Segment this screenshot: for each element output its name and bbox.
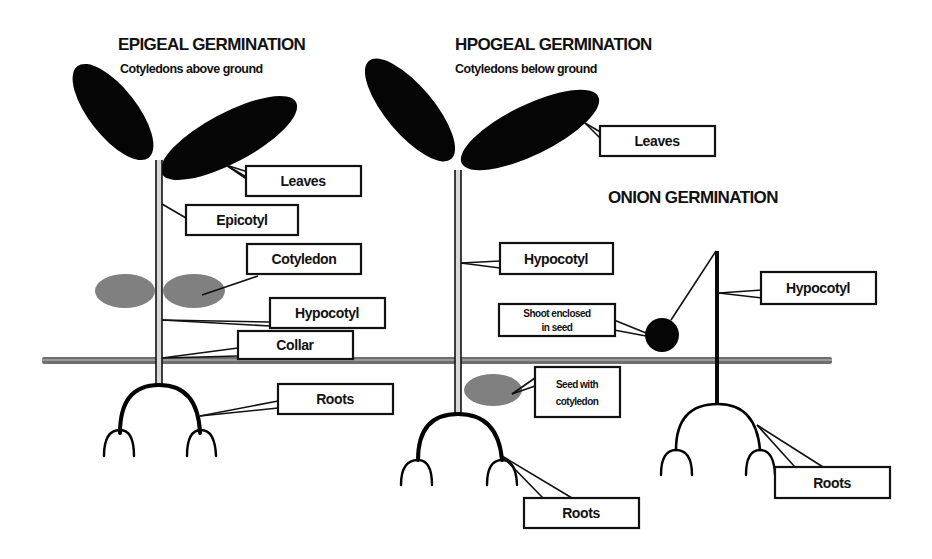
leaf-left [350,46,469,175]
label-collar: Collar [276,337,314,353]
leaf-right [451,74,610,186]
root-branch-left [401,460,432,485]
label-roots: Roots [813,475,851,491]
label-seed-with-cotyledon-line2: cotyledon [556,396,599,407]
roots-main [676,404,760,450]
epigeal-title: EPIGEAL GERMINATION [118,35,306,54]
epigeal-plant: EPIGEAL GERMINATION Cotyledons above gro… [58,35,393,456]
stem [156,160,162,385]
cotyledon-left [95,274,155,308]
label-cotyledon: Cotyledon [272,251,337,267]
label-roots: Roots [316,391,354,407]
onion-plant: ONION GERMINATION Shoot enclosed in seed… [499,188,890,498]
root-branch-left [661,450,692,475]
label-shoot-enclosed-line1: Shoot enclosed [523,308,591,319]
epigeal-subtitle: Cotyledons above ground [120,62,263,76]
label-hypocotyl: Hypocotyl [295,305,359,321]
germination-diagram: EPIGEAL GERMINATION Cotyledons above gro… [0,0,932,559]
onion-seed [645,318,679,352]
label-epicotyl: Epicotyl [216,212,267,228]
root-branch-right [746,450,775,475]
label-shoot-enclosed-line2: in seed [542,322,573,333]
roots-main [418,414,502,460]
label-hypocotyl: Hypocotyl [786,280,850,296]
roots-main [120,385,200,433]
label-leaves: Leaves [280,173,326,189]
stem [455,170,461,415]
onion-title: ONION GERMINATION [608,188,778,207]
hypogeal-subtitle: Cotyledons below ground [455,62,597,76]
label-roots: Roots [562,505,600,521]
seed-cotyledon [464,374,522,406]
hypogeal-plant: HPOGEAL GERMINATION Cotyledons below gro… [350,35,715,528]
label-box-seed-with-cotyledon [535,367,620,417]
seed-to-shoot-line [671,251,716,320]
root-branch-right [487,460,517,485]
label-leaves: Leaves [634,133,680,149]
hypogeal-title: HPOGEAL GERMINATION [455,35,652,54]
label-seed-with-cotyledon-line1: Seed with [556,379,599,390]
label-hypocotyl: Hypocotyl [524,251,588,267]
